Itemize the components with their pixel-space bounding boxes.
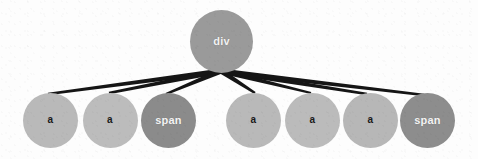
diagram-canvas: divaaspanaaaspan [0,0,478,159]
tree-node-span-7[interactable]: span [400,93,455,148]
tree-node-a-6[interactable]: a [343,93,398,148]
tree-node-a-5[interactable]: a [285,93,340,148]
tree-node-span-3[interactable]: span [141,93,196,148]
tree-node-label: span [155,115,181,126]
tree-edge [109,68,222,94]
tree-node-a-2[interactable]: a [83,93,138,148]
tree-node-label: div [213,36,230,47]
tree-node-label: span [414,115,440,126]
tree-node-a-1[interactable]: a [23,93,78,148]
tree-node-div[interactable]: div [190,10,253,73]
tree-node-label: a [107,115,113,125]
tree-node-label: a [251,115,257,125]
tree-node-label: a [368,115,374,125]
tree-node-label: a [48,115,54,125]
tree-node-a-4[interactable]: a [226,93,281,148]
tree-node-label: a [310,115,316,125]
